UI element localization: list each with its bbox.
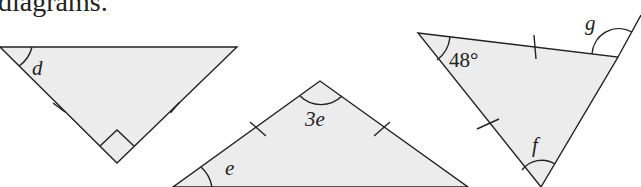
angle-label-e: e <box>225 156 234 180</box>
angle-label-g: g <box>585 11 596 35</box>
triangle-diagrams: d 3e e 48° f g <box>0 0 641 187</box>
triangle-fg <box>418 15 641 187</box>
triangle-e <box>173 81 468 187</box>
angle-label-d: d <box>32 56 43 80</box>
angle-label-3e: 3e <box>304 107 325 131</box>
angle-label-48: 48° <box>449 48 478 72</box>
